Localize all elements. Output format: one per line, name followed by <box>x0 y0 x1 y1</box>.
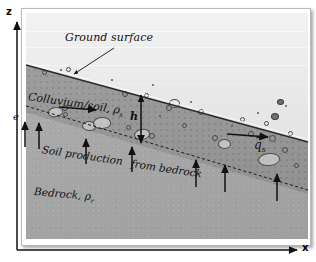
soil-flux-tilde: ~ <box>255 132 263 143</box>
figure-scene <box>26 13 308 239</box>
label-erosion-rate: e <box>13 111 19 122</box>
figure-hillslope-soil-mantle: z x Ground surface Colluvium/soil, ρs e … <box>0 0 316 262</box>
label-ground-surface: Ground surface <box>65 31 153 44</box>
label-soil-flux: ~qs <box>254 138 266 154</box>
axis-label-x: x <box>302 242 308 253</box>
label-soil-thickness: h <box>130 110 138 123</box>
axis-label-z: z <box>6 6 12 17</box>
soil-flux-sub: s <box>262 145 266 154</box>
